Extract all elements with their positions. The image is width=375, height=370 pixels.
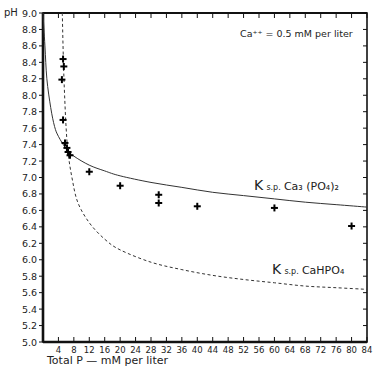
data-point-marker bbox=[60, 56, 67, 63]
curve-label-cahpo4: K s.p. CaHPO₄ bbox=[272, 264, 344, 277]
y-tick-label: 8.0 bbox=[22, 90, 37, 101]
data-point-marker bbox=[117, 182, 124, 189]
y-tick-label: 6.4 bbox=[22, 221, 37, 232]
x-tick-label: 56 bbox=[254, 345, 265, 355]
y-tick-label: 5.8 bbox=[22, 271, 37, 282]
x-tick-label: 48 bbox=[223, 345, 234, 355]
data-point-marker bbox=[155, 199, 162, 206]
data-point-marker bbox=[86, 168, 93, 175]
x-tick-label: 68 bbox=[300, 345, 311, 355]
x-tick-label: 60 bbox=[269, 345, 280, 355]
y-tick-label: 7.6 bbox=[22, 123, 37, 134]
y-tick-label: 5.6 bbox=[22, 287, 37, 298]
y-tick-label: 9.0 bbox=[22, 8, 37, 19]
curve-ca3po4 bbox=[43, 13, 367, 207]
curves bbox=[43, 13, 367, 289]
x-tick-label: 52 bbox=[238, 345, 249, 355]
y-tick-label: 7.4 bbox=[22, 139, 37, 150]
curve-cahpo4 bbox=[62, 13, 367, 289]
annotation-calcium: Ca⁺⁺ = 0.5 mM per liter bbox=[240, 29, 353, 39]
curve-label-k: K bbox=[254, 177, 263, 193]
y-tick-label: 5.4 bbox=[22, 304, 37, 315]
y-tick-label: 6.8 bbox=[22, 188, 37, 199]
plot-frame bbox=[43, 13, 367, 342]
x-tick-label: 84 bbox=[362, 345, 373, 355]
curve-label-sub: s.p. bbox=[284, 267, 298, 276]
data-point-marker bbox=[60, 116, 67, 123]
x-tick-label: 76 bbox=[331, 345, 342, 355]
y-axis-label: pH bbox=[4, 8, 18, 18]
y-tick-label: 8.8 bbox=[22, 24, 37, 35]
curve-label-formula: Ca₃ (PO₄)₂ bbox=[284, 180, 339, 193]
y-tick-label: 5.2 bbox=[22, 320, 37, 331]
curve-label-sub: s.p. bbox=[266, 183, 280, 192]
x-tick-label: 64 bbox=[284, 345, 295, 355]
data-point-marker bbox=[271, 204, 278, 211]
y-tick-label: 8.2 bbox=[22, 73, 37, 84]
x-tick-label: 44 bbox=[207, 345, 218, 355]
curve-label-ca3po4: K s.p. Ca₃ (PO₄)₂ bbox=[254, 180, 339, 193]
y-tick-label: 7.0 bbox=[22, 172, 37, 183]
data-point-marker bbox=[194, 203, 201, 210]
y-tick-label: 6.2 bbox=[22, 238, 37, 249]
y-tick-label: 8.4 bbox=[22, 57, 37, 68]
data-point-marker bbox=[348, 223, 355, 230]
y-tick-label: 5.0 bbox=[22, 337, 37, 348]
data-point-marker bbox=[58, 76, 65, 83]
x-tick-label: 80 bbox=[346, 345, 357, 355]
x-tick-label: 72 bbox=[315, 345, 326, 355]
y-tick-label: 7.2 bbox=[22, 156, 37, 167]
y-axis: 5.05.25.45.65.86.06.26.46.66.87.07.27.47… bbox=[22, 8, 367, 348]
curve-label-k: K bbox=[272, 261, 281, 277]
x-axis-label: Total P — mM per liter bbox=[47, 356, 168, 366]
x-tick-label: 36 bbox=[176, 345, 187, 355]
y-tick-label: 8.6 bbox=[22, 40, 37, 51]
y-tick-label: 7.8 bbox=[22, 106, 37, 117]
data-points bbox=[58, 56, 355, 230]
data-point-marker bbox=[155, 191, 162, 198]
y-tick-label: 6.6 bbox=[22, 205, 37, 216]
x-tick-label: 40 bbox=[192, 345, 203, 355]
data-point-marker bbox=[60, 63, 67, 70]
curve-label-formula: CaHPO₄ bbox=[302, 264, 344, 277]
y-tick-label: 6.0 bbox=[22, 254, 37, 265]
